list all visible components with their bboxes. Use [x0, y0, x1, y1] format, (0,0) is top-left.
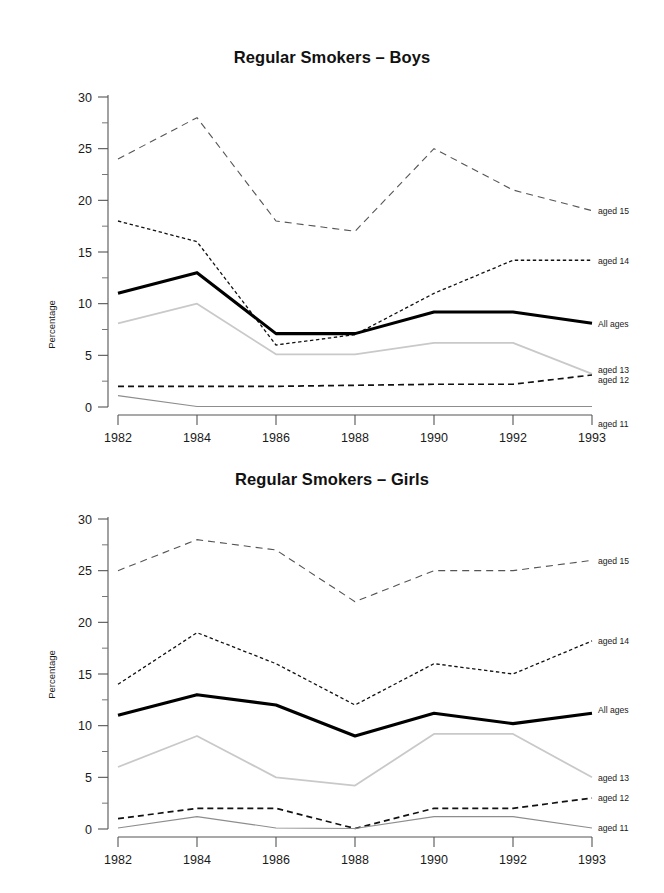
x-tick-label: 1986 [262, 853, 290, 867]
x-tick-label: 1986 [262, 431, 290, 445]
series-label-aged-13: aged 13 [598, 773, 629, 783]
plot-area-boys: Percentage 05101520253019821984198619881… [0, 67, 664, 447]
x-tick-label: 1993 [578, 431, 606, 445]
x-tick-label: 1988 [341, 853, 369, 867]
x-tick-label: 1982 [104, 853, 132, 867]
chart-title-boys: Regular Smokers – Boys [0, 0, 664, 67]
series-line-aged-11 [118, 396, 592, 407]
y-axis-label-boys: Percentage [46, 270, 57, 380]
series-label-aged-13: aged 13 [598, 365, 629, 375]
x-tick-label: 1990 [420, 853, 448, 867]
y-tick-label: 5 [85, 349, 92, 363]
series-line-aged-12 [118, 375, 592, 386]
y-axis-label-girls: Percentage [46, 620, 57, 730]
x-tick-label: 1992 [499, 853, 527, 867]
y-tick-label: 10 [78, 297, 92, 311]
chart-block-girls: Regular Smokers – Girls Percentage 05101… [0, 458, 664, 893]
series-label-all-ages: All ages [598, 705, 629, 715]
y-tick-label: 15 [78, 246, 92, 260]
plot-area-girls: Percentage 05101520253019821984198619881… [0, 489, 664, 869]
y-tick-label: 25 [78, 564, 92, 578]
series-line-aged-13 [118, 734, 592, 786]
series-line-aged-15 [118, 540, 592, 602]
y-tick-label: 20 [78, 194, 92, 208]
y-tick-label: 5 [85, 771, 92, 785]
series-label-aged-14: aged 14 [598, 256, 629, 266]
series-line-aged-14 [118, 221, 592, 345]
y-tick-label: 30 [78, 91, 92, 105]
series-line-all-ages [118, 695, 592, 736]
series-line-aged-11 [118, 817, 592, 829]
series-line-all-ages [118, 273, 592, 334]
y-tick-label: 30 [78, 513, 92, 527]
series-line-aged-14 [118, 633, 592, 705]
series-label-aged-12: aged 12 [598, 375, 629, 385]
series-label-aged-15: aged 15 [598, 556, 629, 566]
series-label-aged-11: aged 11 [598, 419, 629, 429]
series-label-all-ages: All ages [598, 319, 629, 329]
x-tick-label: 1984 [183, 853, 211, 867]
y-tick-label: 25 [78, 142, 92, 156]
y-tick-label: 10 [78, 719, 92, 733]
chart-title-girls: Regular Smokers – Girls [0, 458, 664, 489]
chart-block-boys: Regular Smokers – Boys Percentage 051015… [0, 0, 664, 458]
y-tick-label: 0 [85, 401, 92, 415]
chart-svg-girls: 0510152025301982198419861988199019921993… [0, 489, 664, 869]
x-tick-label: 1982 [104, 431, 132, 445]
series-label-aged-12: aged 12 [598, 793, 629, 803]
x-tick-label: 1993 [578, 853, 606, 867]
y-tick-label: 20 [78, 616, 92, 630]
x-tick-label: 1992 [499, 431, 527, 445]
series-label-aged-14: aged 14 [598, 636, 629, 646]
series-label-aged-15: aged 15 [598, 206, 629, 216]
y-tick-label: 0 [85, 823, 92, 837]
x-tick-label: 1984 [183, 431, 211, 445]
x-tick-label: 1990 [420, 431, 448, 445]
series-label-aged-11: aged 11 [598, 823, 629, 833]
x-tick-label: 1988 [341, 431, 369, 445]
y-tick-label: 15 [78, 668, 92, 682]
series-line-aged-15 [118, 118, 592, 232]
series-line-aged-12 [118, 798, 592, 828]
chart-svg-boys: 0510152025301982198419861988199019921993… [0, 67, 664, 447]
